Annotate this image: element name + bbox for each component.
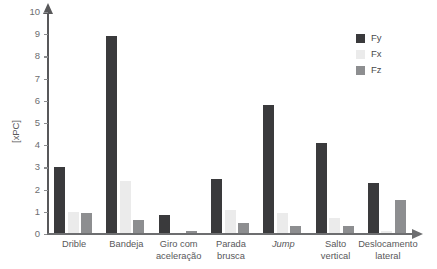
bar-fy xyxy=(106,36,117,234)
legend-label: Fz xyxy=(371,65,382,75)
y-axis-title: [xPC] xyxy=(10,104,21,160)
bar-group xyxy=(159,12,197,234)
y-tick-mark xyxy=(44,167,48,168)
bar-group xyxy=(316,12,354,234)
bar-fz xyxy=(395,200,406,234)
y-tick-label: 2 xyxy=(18,185,40,195)
legend-label: Fy xyxy=(371,33,382,43)
y-tick-mark xyxy=(44,79,48,80)
bar-chart: 012345678910 [xPC] DribleBandejaGiro com… xyxy=(0,0,437,269)
bar-fx xyxy=(120,181,131,234)
y-tick-mark xyxy=(44,123,48,124)
bar-group xyxy=(211,12,249,234)
y-tick-mark xyxy=(44,145,48,146)
bar-fy xyxy=(211,179,222,235)
y-tick-mark xyxy=(44,190,48,191)
x-category-label: Deslocamento lateral xyxy=(353,239,423,262)
bar-fz xyxy=(81,213,92,234)
chart-legend: FyFxFz xyxy=(356,30,382,78)
bar-fy xyxy=(263,105,274,234)
legend-swatch-icon xyxy=(356,66,365,75)
bar-fy xyxy=(159,215,170,234)
bar-fx xyxy=(277,213,288,234)
bar-group xyxy=(106,12,144,234)
x-axis-line xyxy=(47,233,414,235)
bar-fx xyxy=(68,212,79,234)
y-tick-label: 9 xyxy=(18,29,40,39)
y-tick-label: 0 xyxy=(18,229,40,239)
legend-swatch-icon xyxy=(356,34,365,43)
bar-fy xyxy=(368,183,379,234)
bar-fx xyxy=(225,210,236,234)
bar-fx xyxy=(329,218,340,234)
y-tick-mark xyxy=(44,12,48,13)
y-tick-label: 6 xyxy=(18,96,40,106)
bar-group xyxy=(54,12,92,234)
y-tick-mark xyxy=(44,56,48,57)
y-tick-label: 10 xyxy=(18,7,40,17)
y-tick-mark xyxy=(44,212,48,213)
legend-item: Fz xyxy=(356,62,382,78)
legend-swatch-icon xyxy=(356,50,365,59)
y-tick-label: 8 xyxy=(18,51,40,61)
y-tick-mark xyxy=(44,101,48,102)
y-tick-label: 4 xyxy=(18,140,40,150)
bar-fy xyxy=(316,143,327,234)
legend-label: Fx xyxy=(371,49,382,59)
y-tick-label: 7 xyxy=(18,74,40,84)
bar-group xyxy=(263,12,301,234)
y-tick-label: 3 xyxy=(18,162,40,172)
y-tick-label: 5 xyxy=(18,118,40,128)
bar-fz xyxy=(133,220,144,234)
y-tick-mark xyxy=(44,34,48,35)
legend-item: Fx xyxy=(356,46,382,62)
y-tick-label: 1 xyxy=(18,207,40,217)
bar-fy xyxy=(54,167,65,234)
x-axis-arrow-icon xyxy=(412,229,423,239)
legend-item: Fy xyxy=(356,30,382,46)
